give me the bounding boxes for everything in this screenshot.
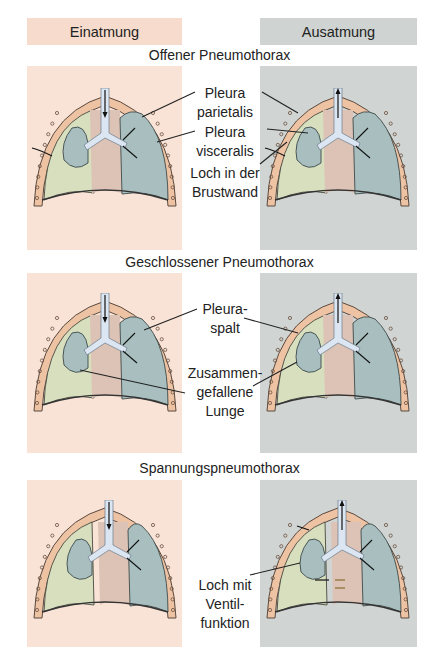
label-line: visceralis bbox=[180, 142, 270, 161]
label-line: Brustwand bbox=[178, 183, 272, 202]
rib-dot bbox=[151, 316, 154, 319]
rib-dot bbox=[384, 111, 387, 114]
rib-dot bbox=[156, 327, 159, 330]
rib-dot bbox=[389, 327, 392, 330]
label-line: gefallene bbox=[175, 383, 275, 402]
thorax-diagram-tension-exhale bbox=[263, 500, 413, 620]
rib-dot bbox=[280, 338, 283, 341]
label-line: Pleura bbox=[180, 123, 270, 142]
thorax-diagram-open-inhale bbox=[30, 88, 180, 208]
rib-dot bbox=[280, 545, 283, 548]
label-line: parietalis bbox=[180, 103, 270, 122]
label-zusammengefallene-lunge: Zusammen- gefallene Lunge bbox=[175, 364, 275, 421]
thorax-diagram-closed-exhale bbox=[263, 293, 413, 413]
rib-dot bbox=[284, 534, 287, 537]
right-lung bbox=[361, 524, 401, 612]
thorax-diagram-open-exhale bbox=[263, 88, 413, 208]
rib-dot bbox=[151, 523, 154, 526]
rib-dot bbox=[389, 534, 392, 537]
mediastinum bbox=[98, 522, 130, 605]
rib-dot bbox=[397, 555, 400, 558]
rib-dot bbox=[160, 338, 163, 341]
rib-dot bbox=[160, 545, 163, 548]
right-lung bbox=[353, 112, 401, 200]
rib-dot bbox=[47, 545, 50, 548]
inhale-header: Einatmung bbox=[27, 18, 182, 45]
rib-dot bbox=[288, 316, 291, 319]
rib-dot bbox=[43, 555, 46, 558]
rib-dot bbox=[288, 111, 291, 114]
right-lung bbox=[120, 317, 168, 405]
label-loch-ventilfunktion: Loch mit Ventil- funktion bbox=[180, 576, 270, 633]
rib-dot bbox=[164, 348, 167, 351]
rib-dot bbox=[284, 327, 287, 330]
label-line: Ventil- bbox=[180, 595, 270, 614]
rib-dot bbox=[288, 523, 291, 526]
exhale-header: Ausatmung bbox=[260, 18, 417, 45]
rib-dot bbox=[397, 143, 400, 146]
mediastinum bbox=[331, 522, 363, 605]
rib-dot bbox=[51, 122, 54, 125]
rib-dot bbox=[280, 133, 283, 136]
rib-dot bbox=[51, 327, 54, 330]
rib-dot bbox=[276, 555, 279, 558]
label-line: Pleura bbox=[180, 84, 270, 103]
right-lung bbox=[353, 317, 401, 405]
right-lung bbox=[120, 112, 168, 200]
rib-dot bbox=[156, 534, 159, 537]
rib-dot bbox=[43, 348, 46, 351]
thorax-diagram-closed-inhale bbox=[30, 293, 180, 413]
rib-dot bbox=[393, 338, 396, 341]
label-line: funktion bbox=[180, 614, 270, 633]
thorax-diagram-tension-inhale bbox=[30, 500, 180, 620]
section-title-tension: Spannungspneumothorax bbox=[0, 460, 439, 476]
rib-dot bbox=[160, 133, 163, 136]
rib-dot bbox=[164, 555, 167, 558]
rib-dot bbox=[284, 122, 287, 125]
inhale-header-label: Einatmung bbox=[70, 24, 139, 40]
label-pleura-visceralis: Pleura visceralis bbox=[180, 123, 270, 161]
rib-dot bbox=[384, 316, 387, 319]
section-title-open: Offener Pneumothorax bbox=[0, 47, 439, 63]
label-pleura-parietalis: Pleura parietalis bbox=[180, 84, 270, 122]
rib-dot bbox=[276, 143, 279, 146]
rib-dot bbox=[393, 133, 396, 136]
section-title-closed: Geschlossener Pneumothorax bbox=[0, 254, 439, 270]
rib-dot bbox=[47, 338, 50, 341]
rib-dot bbox=[276, 348, 279, 351]
rib-dot bbox=[55, 316, 58, 319]
rib-dot bbox=[384, 523, 387, 526]
rib-dot bbox=[393, 545, 396, 548]
rib-dot bbox=[151, 111, 154, 114]
label-loch-brustwand: Loch in der Brustwand bbox=[178, 164, 272, 202]
label-line: spalt bbox=[180, 319, 270, 338]
rib-dot bbox=[55, 523, 58, 526]
rib-dot bbox=[43, 143, 46, 146]
rib-dot bbox=[397, 348, 400, 351]
exhale-header-label: Ausatmung bbox=[302, 24, 375, 40]
label-pleuraspalt: Pleura- spalt bbox=[180, 300, 270, 338]
label-line: Loch in der bbox=[178, 164, 272, 183]
rib-dot bbox=[47, 133, 50, 136]
rib-dot bbox=[156, 122, 159, 125]
label-line: Loch mit bbox=[180, 576, 270, 595]
label-line: Zusammen- bbox=[175, 364, 275, 383]
rib-dot bbox=[164, 143, 167, 146]
rib-dot bbox=[55, 111, 58, 114]
rib-dot bbox=[389, 122, 392, 125]
label-line: Pleura- bbox=[180, 300, 270, 319]
label-line: Lunge bbox=[175, 402, 275, 421]
rib-dot bbox=[51, 534, 54, 537]
right-lung bbox=[128, 524, 168, 612]
